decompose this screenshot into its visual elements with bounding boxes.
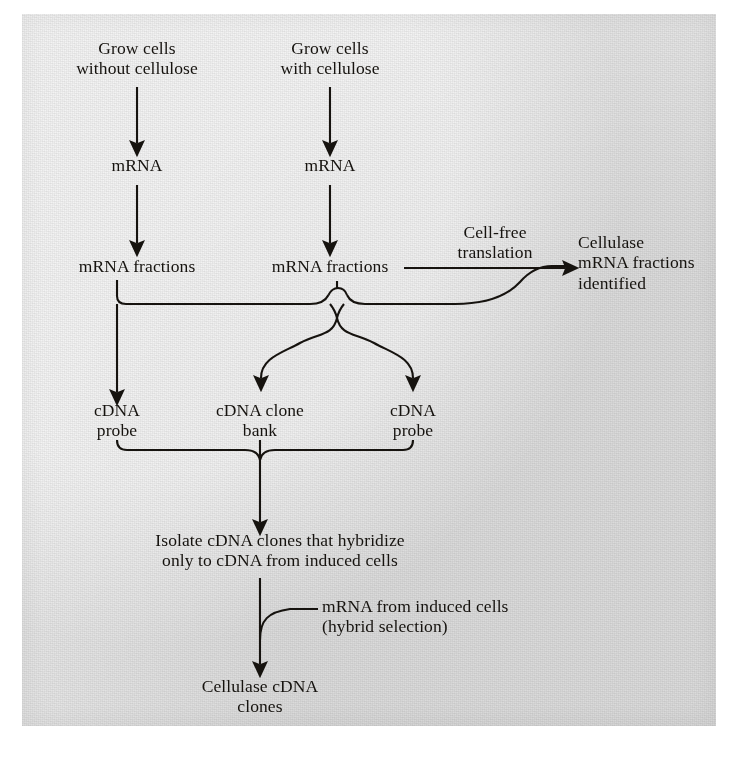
edge-label-cell-free-translation: Cell-free translation <box>458 222 533 263</box>
line-hybrid-selection-inflow <box>260 609 318 640</box>
node-mrna-fractions-right: mRNA fractions <box>272 256 389 276</box>
node-cdna-probe-left: cDNA probe <box>94 400 140 441</box>
line-fork-spine <box>330 304 344 318</box>
node-cdna-probe-right: cDNA probe <box>390 400 436 441</box>
arrow-fork-to-clone-bank <box>261 318 337 378</box>
brace-left-arm <box>117 440 260 460</box>
node-isolate-cdna-clones: Isolate cDNA clones that hybridize only … <box>155 530 404 571</box>
node-grow-cells-with-cellulose: Grow cells with cellulose <box>280 38 379 79</box>
line-sweep-bar-left <box>117 295 329 304</box>
node-mrna-right: mRNA <box>305 155 356 175</box>
arrow-fork-to-cdna-probe-right <box>337 318 413 378</box>
node-cellulase-cdna-clones: Cellulase cDNA clones <box>202 676 319 717</box>
flowchart-connectors <box>0 0 746 770</box>
node-grow-cells-without-cellulose: Grow cells without cellulose <box>76 38 198 79</box>
line-hop-over-centre <box>329 288 348 295</box>
node-cdna-clone-bank: cDNA clone bank <box>216 400 304 441</box>
brace-right-arm <box>260 440 413 460</box>
node-mrna-fractions-left: mRNA fractions <box>79 256 196 276</box>
node-cellulase-mrna-fractions-identified: Cellulase mRNA fractions identified <box>578 232 695 293</box>
edge-label-hybrid-selection: mRNA from induced cells (hybrid selectio… <box>322 596 509 637</box>
node-mrna-left: mRNA <box>112 155 163 175</box>
